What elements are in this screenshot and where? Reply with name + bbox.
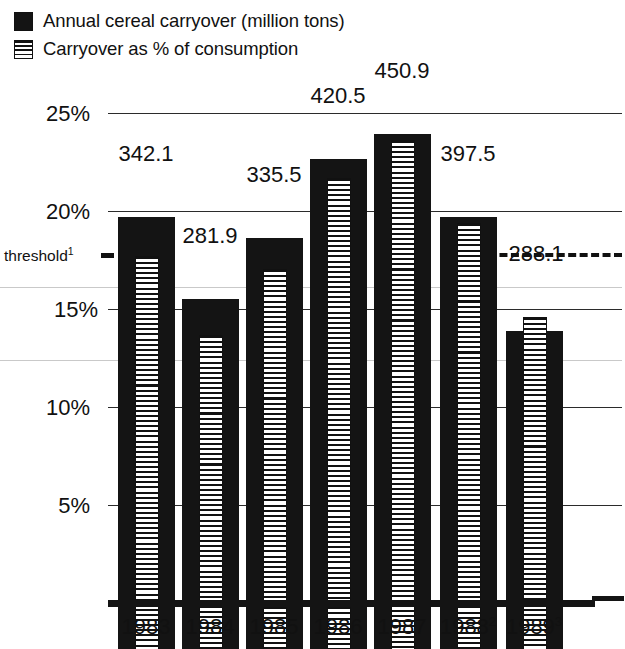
bar-group-1986 bbox=[310, 45, 367, 649]
ytick-label-25: 25% bbox=[18, 103, 90, 125]
bar-striped-1988 bbox=[457, 223, 481, 649]
bar-striped-1987 bbox=[391, 140, 415, 649]
value-label-1986: 420.5 bbox=[288, 85, 388, 107]
xtick-note-1989: 3 bbox=[555, 614, 562, 629]
xtick-year-1988: 1988 bbox=[440, 614, 489, 639]
x-axis-baseline-extension bbox=[592, 596, 624, 601]
bar-group-1988 bbox=[440, 45, 497, 649]
value-label-1983: 342.1 bbox=[96, 143, 196, 165]
value-label-1987: 450.9 bbox=[352, 60, 452, 82]
plot-area: 25% 20% 15% 10% 5% threshold1 342.1 281.… bbox=[0, 0, 625, 649]
ytick-label-15: 15% bbox=[26, 299, 98, 321]
value-label-1988: 397.5 bbox=[418, 143, 518, 165]
bar-striped-1986 bbox=[327, 178, 351, 649]
ytick-label-threshold: threshold1 bbox=[4, 248, 100, 264]
value-label-1985: 335.5 bbox=[224, 164, 324, 186]
threshold-superscript: 1 bbox=[68, 245, 74, 257]
threshold-text: threshold bbox=[4, 247, 68, 264]
x-axis-baseline bbox=[108, 600, 595, 607]
bar-group-1984 bbox=[182, 45, 239, 649]
ytick-label-20: 20% bbox=[18, 201, 90, 223]
xtick-year-1989: 1989 bbox=[506, 614, 555, 639]
bar-group-1983 bbox=[118, 45, 175, 649]
value-label-1989: 288.1 bbox=[486, 243, 586, 265]
bar-striped-1985 bbox=[263, 269, 287, 649]
bar-group-1989 bbox=[506, 45, 563, 649]
bar-group-1987 bbox=[374, 45, 431, 649]
threshold-dash-left-stub bbox=[101, 253, 114, 258]
bar-group-1985 bbox=[246, 45, 303, 649]
value-label-1984: 281.9 bbox=[160, 225, 260, 247]
cereal-carryover-chart: Annual cereal carryover (million tons) C… bbox=[0, 0, 625, 649]
bar-striped-1983 bbox=[135, 256, 159, 649]
ytick-label-5: 5% bbox=[30, 495, 90, 517]
xtick-label-1989: 19893 bbox=[484, 616, 584, 638]
ytick-label-10: 10% bbox=[18, 397, 90, 419]
